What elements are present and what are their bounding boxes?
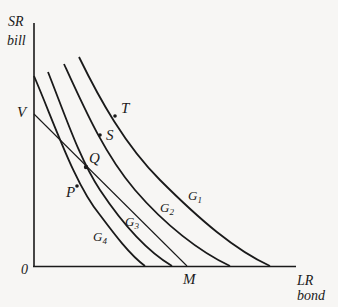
label-m: M (182, 271, 197, 287)
label-s: S (106, 127, 114, 143)
label-q: Q (89, 150, 100, 166)
indifference-curve-diagram: SR bill LR bond 0 V M T S Q P G1 G2 G3 G… (0, 0, 338, 307)
origin-label: 0 (21, 262, 28, 277)
y-axis-label-line2: bill (7, 33, 26, 48)
point-p (75, 184, 79, 188)
y-axis-label-line1: SR (8, 14, 24, 29)
label-g1: G1 (188, 188, 202, 205)
label-p: P (65, 184, 75, 200)
label-g2: G2 (160, 200, 174, 217)
point-s (98, 133, 102, 137)
label-v: V (17, 104, 28, 120)
x-axis-label-line1: LR (296, 273, 314, 288)
point-q (84, 165, 88, 169)
label-g4: G4 (93, 229, 107, 246)
curve-g1 (79, 57, 270, 266)
x-axis-label-line2: bond (297, 288, 326, 303)
curve-g3 (48, 72, 172, 266)
label-t: T (121, 100, 131, 116)
point-t (113, 114, 117, 118)
